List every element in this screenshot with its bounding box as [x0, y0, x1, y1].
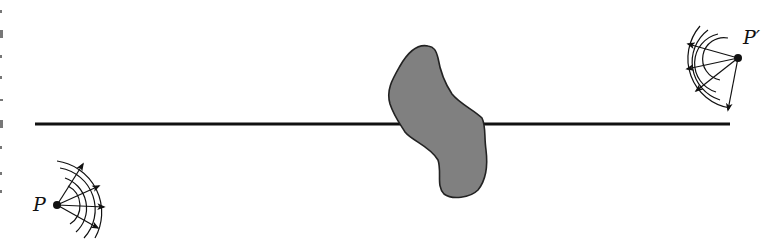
source-wavefronts [57, 161, 104, 238]
source-point [53, 201, 61, 209]
diagram-canvas: P P′ [0, 0, 781, 248]
image-label: P′ [742, 26, 761, 48]
image-point [734, 54, 742, 62]
source-label: P [32, 193, 47, 215]
image-wavefronts [687, 26, 738, 110]
cropped-margin-text [0, 10, 3, 193]
obstacle-blob [389, 46, 487, 198]
